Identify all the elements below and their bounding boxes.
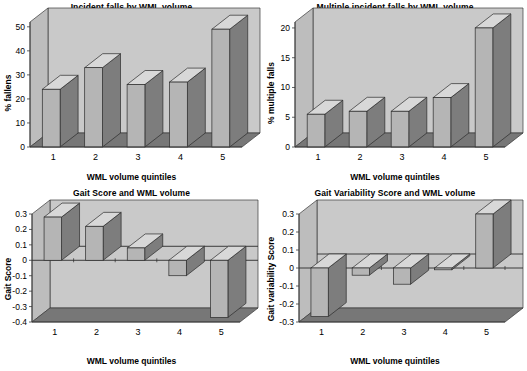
- x-axis-category-label: 3: [135, 152, 140, 162]
- x-axis-category-label: 3: [135, 327, 140, 337]
- bar-5: [475, 14, 511, 147]
- y-axis-tick-label: 15: [281, 53, 291, 63]
- bar-5: [210, 246, 245, 317]
- x-axis-category-label: 5: [484, 327, 489, 337]
- chart-plot-area: 0.30.20.10-0.1-0.2-0.3-0.412345: [0, 186, 263, 371]
- chart-panel-gait-score: Gait Score and WML volume Gait Score 0.3…: [0, 186, 263, 371]
- x-axis-label: WML volume quintiles: [0, 172, 263, 182]
- y-axis-tick-label: 0: [289, 263, 294, 273]
- y-axis-tick-label: 0.1: [282, 245, 294, 255]
- x-axis-category-label: 2: [357, 152, 362, 162]
- y-axis-tick-label: -0.1: [12, 271, 27, 281]
- x-axis-category-label: 2: [360, 327, 365, 337]
- x-axis-category-label: 5: [219, 327, 224, 337]
- x-axis-label: WML volume quintiles: [0, 356, 263, 366]
- x-axis-category-label: 1: [52, 327, 57, 337]
- x-axis-category-label: 2: [94, 327, 99, 337]
- chart-panel-incident-falls: Incident falls by WML volume % fallens 0…: [0, 0, 263, 186]
- y-axis-tick-label: 20: [281, 23, 291, 33]
- x-axis-label: WML volume quintiles: [263, 172, 527, 182]
- x-axis-category-label: 1: [51, 152, 56, 162]
- y-axis-tick-label: 50: [16, 22, 26, 32]
- y-axis-tick-label: 30: [16, 70, 26, 80]
- y-axis-tick-label: 0: [22, 255, 27, 265]
- bar-5: [476, 200, 511, 268]
- x-axis-label: WML volume quintiles: [263, 356, 527, 366]
- bar-4: [433, 84, 469, 147]
- y-axis-tick-label: 10: [16, 118, 26, 128]
- y-axis-tick-label: 40: [16, 46, 26, 56]
- x-axis-category-label: 3: [401, 327, 406, 337]
- y-axis-tick-label: -0.2: [279, 299, 294, 309]
- x-axis-category-label: 5: [220, 152, 225, 162]
- y-axis-tick-label: 0.2: [15, 224, 27, 234]
- y-axis-tick-label: 10: [281, 82, 291, 92]
- y-axis-tick-label: -0.4: [12, 317, 27, 327]
- y-axis-tick-label: -0.2: [12, 286, 27, 296]
- figure-panel-grid: Incident falls by WML volume % fallens 0…: [0, 0, 527, 371]
- y-axis-tick-label: 5: [285, 112, 290, 122]
- x-axis-category-label: 4: [443, 327, 448, 337]
- bar-1: [42, 75, 78, 147]
- x-axis-category-label: 2: [93, 152, 98, 162]
- x-axis-category-label: 4: [177, 327, 182, 337]
- x-axis-category-label: 1: [315, 152, 320, 162]
- y-axis-tick-label: -0.3: [279, 317, 294, 327]
- x-axis-category-label: 4: [178, 152, 183, 162]
- y-axis-tick-label: 0: [285, 142, 290, 152]
- chart-panel-gait-variability-score: Gait Variability Score and WML volume Ga…: [263, 186, 527, 371]
- chart-plot-area: 0.30.20.10-0.1-0.2-0.312345: [263, 186, 527, 371]
- y-axis-tick-label: 0: [20, 142, 25, 152]
- x-axis-category-label: 1: [319, 327, 324, 337]
- bar-5: [212, 15, 248, 147]
- y-axis-tick-label: -0.3: [12, 302, 27, 312]
- y-axis-tick-label: 0.1: [15, 240, 27, 250]
- y-axis-tick-label: 0.2: [282, 227, 294, 237]
- chart-plot-area: 0102030405012345: [0, 0, 263, 186]
- bar-4: [169, 68, 205, 147]
- x-axis-category-label: 5: [483, 152, 488, 162]
- chart-plot-area: 0510152012345: [263, 0, 527, 186]
- bar-2: [85, 54, 121, 147]
- bar-3: [127, 71, 163, 148]
- x-axis-category-label: 4: [441, 152, 446, 162]
- x-axis-category-label: 3: [399, 152, 404, 162]
- y-axis-tick-label: 20: [16, 94, 26, 104]
- y-axis-tick-label: -0.1: [279, 281, 294, 291]
- y-axis-tick-label: 0.3: [282, 209, 294, 219]
- y-axis-tick-label: 0.3: [15, 209, 27, 219]
- chart-panel-multiple-incident-falls: Multiple incident falls by WML volume % …: [263, 0, 527, 186]
